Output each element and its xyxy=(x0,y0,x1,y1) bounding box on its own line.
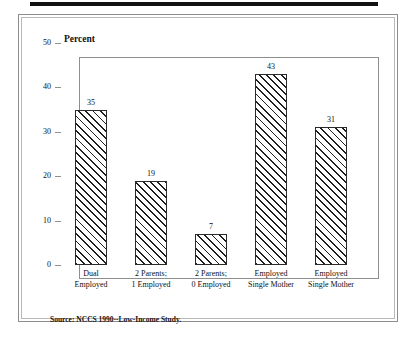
bar xyxy=(195,234,227,265)
y-axis-tick-label: 10 xyxy=(25,216,51,225)
x-axis-category-label: 2 Parents;0 Employed xyxy=(178,268,244,290)
bar-value-label: 19 xyxy=(131,169,171,178)
bar xyxy=(315,127,347,265)
y-axis-tick-label: 30 xyxy=(25,127,51,136)
x-axis-label-line: Single Mother xyxy=(238,279,304,290)
x-axis-label-line: 1 Employed xyxy=(118,279,184,290)
top-decorative-rule xyxy=(30,2,378,6)
bar xyxy=(135,181,167,265)
x-axis-label-line: 0 Employed xyxy=(178,279,244,290)
y-axis-tick-label: 50 xyxy=(25,38,51,47)
x-axis-label-line: Employed xyxy=(238,268,304,279)
x-axis-category-label: EmployedSingle Mother xyxy=(238,268,304,290)
y-axis-tick xyxy=(55,176,61,177)
y-axis-tick xyxy=(55,265,61,266)
bar-value-label: 43 xyxy=(251,62,291,71)
x-axis-label-line: 2 Parents; xyxy=(178,268,244,279)
x-axis-label-line: Employed xyxy=(298,268,364,279)
x-axis-category-label: EmployedSingle Mother xyxy=(298,268,364,290)
x-axis-label-line: 2 Parents; xyxy=(118,268,184,279)
y-axis-tick xyxy=(55,221,61,222)
bar xyxy=(75,110,107,265)
y-axis-tick-label: 0 xyxy=(25,260,51,269)
y-axis-tick-label: 40 xyxy=(25,82,51,91)
x-axis-label-line: Dual xyxy=(58,268,124,279)
x-axis-label-line: Single Mother xyxy=(298,279,364,290)
figure-container: Percent 01020304050 DualEmployed2 Parent… xyxy=(18,14,398,322)
bar-value-label: 7 xyxy=(191,222,231,231)
x-axis-category-label: 2 Parents;1 Employed xyxy=(118,268,184,290)
x-axis-category-label: DualEmployed xyxy=(58,268,124,290)
y-axis-tick xyxy=(55,43,61,44)
y-axis-tick-label: 20 xyxy=(25,171,51,180)
source-note: Source: NCCS 1990--Low-Income Study. xyxy=(50,315,181,324)
y-axis-tick xyxy=(55,87,61,88)
y-axis-tick xyxy=(55,132,61,133)
bar-value-label: 31 xyxy=(311,115,351,124)
bar xyxy=(255,74,287,265)
x-axis-label-line: Employed xyxy=(58,279,124,290)
bar-value-label: 35 xyxy=(71,98,111,107)
y-axis-title: Percent xyxy=(64,34,95,44)
